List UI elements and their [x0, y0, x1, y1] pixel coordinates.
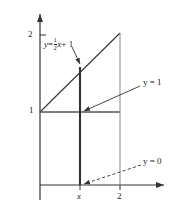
x-axis-tick-label-x: x	[77, 192, 81, 201]
leader-line-equation	[72, 47, 80, 64]
line-equation-label: y=12x+ 1	[44, 37, 73, 52]
x-axis-tick-label-2: 2	[117, 192, 122, 201]
figure-canvas	[0, 0, 172, 214]
math-figure: 2 1 x 2 y=12x+ 1 y = 1 y = 0	[0, 0, 172, 214]
y-axis-tick-label-2: 2	[28, 30, 33, 39]
leader-y-equals-1	[84, 86, 140, 111]
eq-plus-one: + 1	[61, 39, 73, 49]
annotation-leaders-group	[72, 47, 141, 184]
eq-sign: =	[48, 39, 53, 49]
leader-y-equals-0	[84, 165, 141, 184]
label-y-equals-0: y = 0	[143, 157, 162, 166]
label-y-equals-1: y = 1	[143, 78, 162, 87]
y-axis-tick-label-1: 1	[29, 106, 34, 115]
